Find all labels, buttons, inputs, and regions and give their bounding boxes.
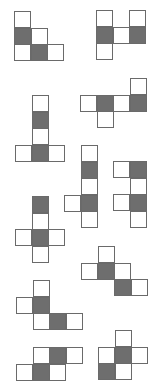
shaded-square — [98, 363, 115, 380]
empty-square — [98, 246, 115, 263]
empty-square — [113, 27, 130, 44]
empty-square — [131, 279, 148, 296]
empty-square — [33, 313, 50, 330]
shaded-square — [130, 194, 147, 211]
shaded-square — [33, 364, 50, 381]
empty-square — [14, 11, 31, 28]
shaded-square — [98, 263, 115, 280]
empty-square — [33, 280, 50, 297]
empty-square — [129, 10, 146, 27]
empty-square — [49, 364, 66, 381]
empty-square — [47, 44, 64, 61]
shaded-square — [31, 44, 48, 61]
shaded-square — [96, 27, 113, 44]
empty-square — [113, 95, 130, 112]
shaded-square — [97, 95, 114, 112]
empty-square — [96, 10, 113, 27]
shaded-square — [14, 28, 31, 45]
shaded-square — [33, 297, 50, 314]
shaded-square — [114, 279, 131, 296]
empty-square — [48, 145, 65, 162]
shaded-square — [130, 161, 147, 178]
shaded-square — [49, 347, 66, 364]
empty-square — [32, 246, 49, 263]
empty-square — [31, 28, 48, 45]
empty-square — [15, 145, 32, 162]
empty-square — [131, 347, 148, 364]
empty-square — [114, 263, 131, 280]
empty-square — [64, 195, 81, 212]
empty-square — [98, 347, 115, 364]
empty-square — [15, 229, 32, 246]
empty-square — [32, 95, 49, 112]
empty-square — [81, 263, 98, 280]
empty-square — [32, 128, 49, 145]
empty-square — [130, 211, 147, 228]
shaded-square — [32, 196, 49, 213]
empty-square — [16, 364, 33, 381]
empty-square — [113, 194, 130, 211]
empty-square — [115, 363, 132, 380]
shaded-square — [32, 145, 49, 162]
empty-square — [66, 313, 83, 330]
empty-square — [81, 211, 98, 228]
empty-square — [115, 330, 132, 347]
empty-square — [97, 111, 114, 128]
empty-square — [66, 347, 83, 364]
empty-square — [96, 43, 113, 60]
shaded-square — [115, 347, 132, 364]
shaded-square — [32, 229, 49, 246]
shaded-square — [81, 195, 98, 212]
empty-square — [130, 78, 147, 95]
empty-square — [113, 161, 130, 178]
shaded-square — [49, 313, 66, 330]
empty-square — [48, 229, 65, 246]
empty-square — [14, 44, 31, 61]
empty-square — [32, 213, 49, 230]
empty-square — [33, 347, 50, 364]
shaded-square — [130, 95, 147, 112]
empty-square — [16, 297, 33, 314]
empty-square — [81, 145, 98, 162]
empty-square — [130, 178, 147, 195]
empty-square — [80, 95, 97, 112]
empty-square — [81, 178, 98, 195]
shaded-square — [32, 112, 49, 129]
shaded-square — [129, 27, 146, 44]
shaded-square — [81, 162, 98, 179]
